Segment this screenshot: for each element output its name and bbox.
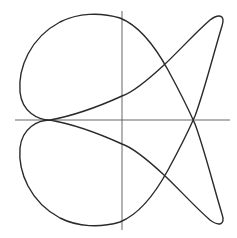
parametric-curve-plot (0, 0, 237, 238)
